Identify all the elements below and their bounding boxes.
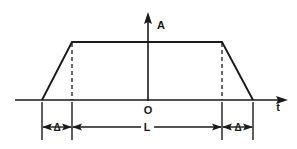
dimension-label-fall: Δ — [234, 122, 241, 133]
figure-canvas: A t O Δ L Δ — [0, 0, 297, 149]
origin-label: O — [144, 104, 153, 116]
trapezoidal-pulse-figure: A t O Δ L Δ — [0, 0, 297, 149]
axis-label-t: t — [276, 101, 280, 113]
dimension-label-rise: Δ — [53, 122, 60, 133]
horizontal-axis — [15, 96, 288, 104]
vertical-axis — [144, 12, 152, 101]
axis-label-a: A — [157, 19, 165, 31]
dimension-label-length: L — [144, 121, 151, 133]
